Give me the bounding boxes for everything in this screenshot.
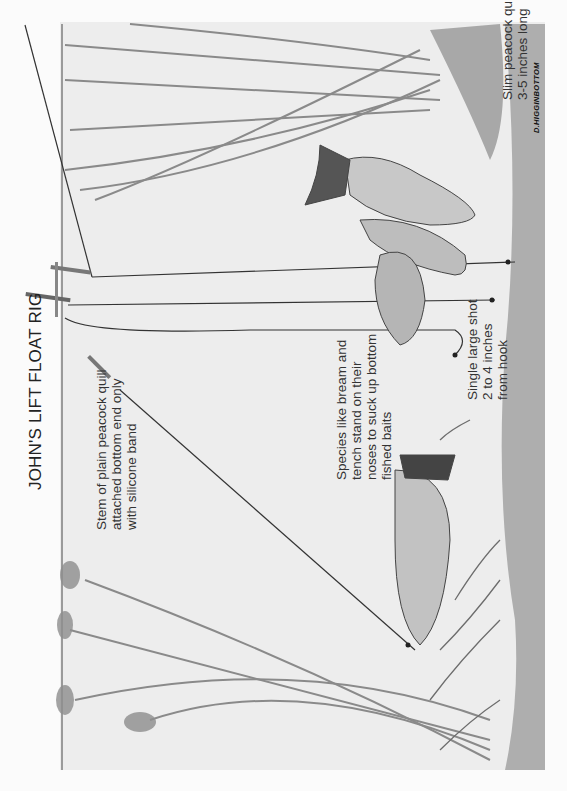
tench-upper: [305, 145, 475, 225]
lily-leaves: [56, 561, 156, 732]
annotation-shot: Single large shot 2 to 4 inches from hoo…: [465, 299, 510, 400]
artist-signature: D.HIGGINBOTTOM: [532, 62, 541, 133]
annotation-line: Species like bream and: [334, 334, 349, 480]
annotation-line: Stem of plain peacock quill: [94, 369, 109, 530]
annotation-line: attached bottom end only: [109, 369, 124, 530]
annotation-stem-quill: Stem of plain peacock quill attached bot…: [94, 369, 139, 530]
annotation-line: with silicone band: [124, 369, 139, 530]
diagram-title: JOHN'S LIFT FLOAT RIG: [26, 293, 46, 490]
annotation-species: Species like bream and tench stand on th…: [334, 334, 394, 480]
annotation-line: tench stand on their: [349, 334, 364, 480]
annotation-line: from hook: [495, 299, 510, 400]
tench-lower: [395, 455, 455, 645]
annotation-line: fished baits: [379, 334, 394, 480]
annotation-line: 3-5 inches long: [515, 0, 530, 100]
weed-clump-top: [430, 24, 503, 160]
annotation-line: noses to suck up bottom: [364, 334, 379, 480]
annotation-line: Single large shot: [465, 299, 480, 400]
annotation-line: Slim peacock quill: [500, 0, 515, 100]
annotation-slim-quill: Slim peacock quill 3-5 inches long: [500, 0, 530, 100]
annotation-line: 2 to 4 inches: [480, 299, 495, 400]
